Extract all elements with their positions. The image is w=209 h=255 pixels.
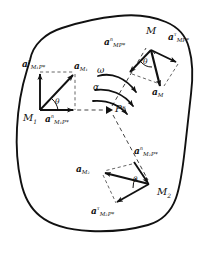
label-alpha: α bbox=[93, 83, 99, 92]
m-parallelogram-right bbox=[164, 64, 178, 86]
subscript: M bbox=[158, 92, 164, 98]
rigid-body-outline bbox=[17, 15, 193, 231]
point-label-p-star: P* bbox=[115, 104, 126, 114]
sym: M bbox=[23, 112, 33, 123]
label-a-m2-n: anM₂P* bbox=[134, 147, 158, 156]
m2-parallelogram-left bbox=[103, 175, 116, 203]
sym: a bbox=[45, 114, 51, 124]
sym: a bbox=[168, 32, 174, 42]
subscript: MP* bbox=[113, 42, 125, 48]
label-a-m2: aM₂ bbox=[76, 165, 90, 174]
subscript: M₂ bbox=[82, 169, 90, 175]
vector-a-m-resultant bbox=[151, 50, 160, 86]
vector-a-m-tau bbox=[151, 50, 176, 62]
sym: a bbox=[76, 164, 82, 174]
point-label-m2: M2 bbox=[157, 187, 171, 197]
sym: M bbox=[157, 186, 167, 197]
label-a-m: aM bbox=[152, 88, 164, 97]
label-omega: ω bbox=[97, 66, 104, 75]
sym: a bbox=[22, 59, 28, 69]
m-vector-group bbox=[130, 50, 178, 86]
subscript: M₂P* bbox=[143, 151, 158, 157]
angle-label-theta-m: θ bbox=[143, 58, 148, 66]
sym: a bbox=[152, 87, 158, 97]
point-label-m: M bbox=[146, 26, 156, 36]
subscript: 1 bbox=[33, 118, 37, 125]
label-a-m-tau: aτMP* bbox=[168, 33, 189, 42]
angle-label-theta-m2: θ bbox=[133, 176, 138, 184]
m-parallelogram-lower bbox=[132, 74, 160, 84]
rigid-body-acceleration-diagram: aτM₁P* aM₁ M1 anM₁P* θ ω α P* M anMP* aτ… bbox=[0, 0, 209, 255]
subscript: M₁P* bbox=[54, 119, 69, 125]
label-a-m2-tau: aτM₂P* bbox=[91, 207, 114, 216]
sym: a bbox=[91, 206, 97, 216]
label-a-m1-n: anM₁P* bbox=[45, 115, 69, 124]
subscript: M₁P* bbox=[31, 64, 46, 70]
subscript: M₁ bbox=[80, 66, 88, 72]
label-a-m1-tau: aτM₁P* bbox=[22, 60, 45, 69]
point-label-m1: M1 bbox=[23, 113, 37, 123]
subscript: 2 bbox=[167, 192, 171, 199]
pole-marker bbox=[106, 106, 113, 114]
sym: a bbox=[134, 146, 140, 156]
sym: P bbox=[115, 103, 122, 114]
radius-lines bbox=[40, 48, 148, 180]
sym: a bbox=[104, 37, 110, 47]
label-a-m-n: anMP* bbox=[104, 38, 125, 47]
angle-label-theta-m1: θ bbox=[55, 98, 60, 106]
label-a-m1: aM₁ bbox=[74, 62, 88, 71]
m2-parallelogram-upper bbox=[104, 164, 132, 171]
star: * bbox=[122, 105, 126, 114]
subscript: MP* bbox=[177, 37, 189, 43]
subscript: M₂P* bbox=[100, 211, 115, 217]
sym: a bbox=[74, 61, 80, 71]
